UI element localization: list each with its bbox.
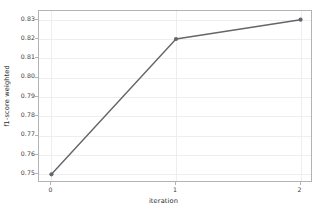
data-point-marker xyxy=(49,172,53,176)
x-tick-label: 2 xyxy=(290,187,310,193)
x-tick-mark xyxy=(50,182,51,185)
x-tick-label: 0 xyxy=(40,187,60,193)
line-series-svg xyxy=(39,11,313,183)
y-tick-label: 0.83 xyxy=(21,16,35,22)
y-tick-label: 0.80 xyxy=(21,73,35,79)
y-axis-label: f1-score weighted xyxy=(3,65,11,127)
chart-figure: f1-score weighted 0.750.760.770.780.790.… xyxy=(0,0,327,211)
series-line xyxy=(51,20,300,175)
x-tick-mark xyxy=(300,182,301,185)
data-point-marker xyxy=(174,37,178,41)
y-tick-label: 0.81 xyxy=(21,54,35,60)
y-tick-label: 0.77 xyxy=(21,131,35,137)
x-tick-mark xyxy=(175,182,176,185)
y-tick-label: 0.75 xyxy=(21,170,35,176)
x-tick-label: 1 xyxy=(165,187,185,193)
y-axis-label-container: f1-score weighted xyxy=(0,0,14,192)
plot-area xyxy=(38,10,312,182)
y-tick-label: 0.79 xyxy=(21,93,35,99)
y-tick-label: 0.78 xyxy=(21,112,35,118)
y-tick-label: 0.76 xyxy=(21,151,35,157)
data-point-marker xyxy=(298,18,302,22)
y-tick-label: 0.82 xyxy=(21,35,35,41)
x-axis-label: iteration xyxy=(0,197,327,205)
